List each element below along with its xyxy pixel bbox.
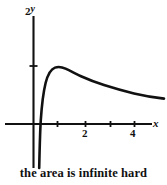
curve-ln-x-over-x: [39, 67, 164, 168]
figure-caption: the area is infinite hard: [0, 166, 167, 181]
y-axis-label-group: 2y: [25, 2, 35, 18]
plot-canvas: [0, 0, 167, 185]
x-tick-label-4: 4: [130, 128, 136, 139]
x-axis-name: x: [153, 118, 159, 129]
y-axis-name: y: [31, 3, 35, 14]
math-figure: 2y x 2 4 the area is infinite hard: [0, 0, 167, 185]
x-tick-label-2: 2: [82, 128, 88, 139]
y-axis-max-value: 2: [25, 5, 31, 17]
